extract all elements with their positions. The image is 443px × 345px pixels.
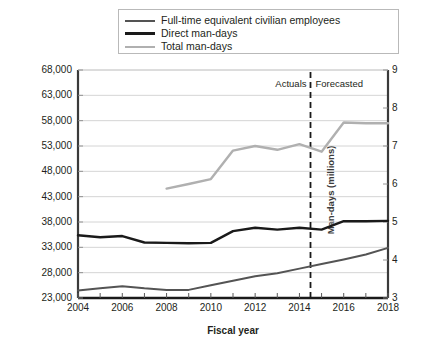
series-line-full-time-equivalent-civilian-employees xyxy=(78,248,388,291)
annotation-actuals: Actuals xyxy=(263,79,307,89)
annotation-forecasted: Forecasted xyxy=(316,79,364,89)
series-line-direct-man-days xyxy=(78,221,388,243)
chart-figure: Full-time equivalent civilian employees … xyxy=(0,0,443,345)
plot-area xyxy=(0,0,443,345)
series-line-total-man-days xyxy=(167,122,388,188)
